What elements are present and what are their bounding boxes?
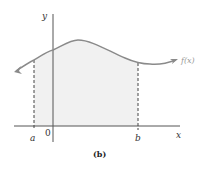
- shaded-area: [34, 40, 138, 126]
- y-axis-label: y: [41, 11, 48, 21]
- function-label: f(x): [180, 56, 195, 65]
- area-under-curve-diagram: y f(x) a 0 b x (b): [0, 0, 204, 170]
- x-axis-label: x: [176, 130, 181, 140]
- b-label: b: [135, 133, 141, 143]
- figure-caption: (b): [93, 149, 106, 159]
- origin-label: 0: [45, 128, 51, 138]
- a-label: a: [30, 133, 35, 143]
